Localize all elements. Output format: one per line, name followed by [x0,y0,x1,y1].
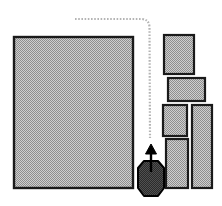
block-right-3[interactable] [163,105,187,136]
diagram-svg [0,0,222,206]
arrow-head [146,144,157,154]
block-right-1[interactable] [164,35,194,74]
block-right-4[interactable] [192,105,212,188]
block-right-2[interactable] [168,78,205,101]
block-main[interactable] [14,37,133,188]
block-right-5[interactable] [166,139,188,188]
diagram-canvas [0,0,222,206]
